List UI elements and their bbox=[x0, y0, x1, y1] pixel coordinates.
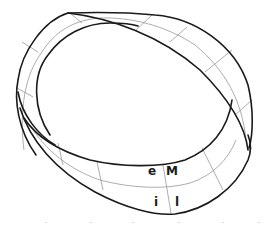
strip-inner-lower-edge bbox=[24, 100, 232, 166]
grid-rung bbox=[136, 15, 152, 30]
label-M: M bbox=[166, 164, 178, 178]
strip-edges bbox=[17, 13, 253, 215]
grid-rung bbox=[202, 148, 223, 190]
grid-rung bbox=[97, 162, 103, 190]
label-l: l bbox=[175, 195, 179, 209]
strip-labels: e M i l bbox=[148, 164, 179, 209]
mobius-strip-diagram: e M i l bbox=[0, 0, 266, 228]
bottom-artifact-dots bbox=[45, 222, 260, 223]
grid-rung bbox=[170, 27, 187, 42]
label-e: e bbox=[148, 164, 156, 178]
label-i: i bbox=[154, 195, 158, 209]
strip-outer-edge bbox=[17, 13, 253, 155]
strip-outer-bottom-edge bbox=[20, 108, 250, 214]
grid-rung bbox=[58, 143, 63, 165]
strip-grid-lines bbox=[17, 13, 252, 213]
strip-twist-edge bbox=[68, 13, 248, 150]
grid-rung bbox=[235, 100, 252, 115]
